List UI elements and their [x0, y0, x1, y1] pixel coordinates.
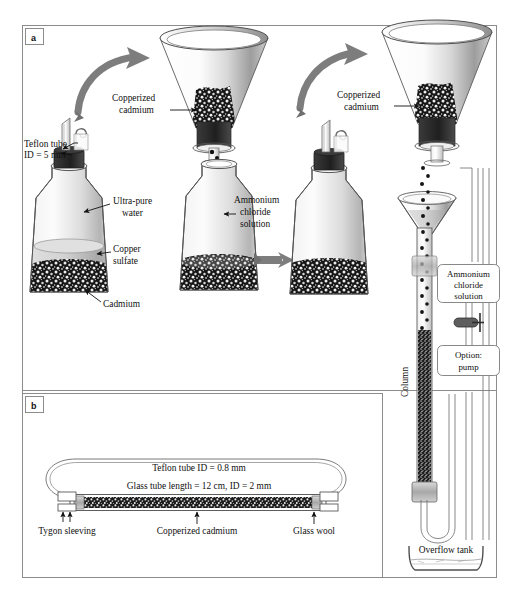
ammonium-chloride-solution-callout: Ammonium chloride solution: [438, 265, 500, 303]
teflon-tube-label-line2: ID = 5 mm: [24, 150, 66, 160]
copperized-cadmium-packing: [82, 497, 314, 508]
funnel-right: [382, 20, 492, 166]
callout-pump-line2: pump: [458, 362, 479, 372]
ultra-pure-water-line2: water: [122, 208, 144, 218]
option-pump-callout: Option: pump: [438, 346, 500, 376]
column-upper-fitting: [412, 256, 437, 276]
label-copperized-cadmium-b: Copperized cadmium: [157, 512, 238, 536]
callout-nh4cl-line1: Ammonium: [447, 269, 490, 279]
cadmium-label: Cadmium: [103, 299, 141, 309]
label-glass-wool: Glass wool: [293, 512, 335, 536]
callout-nh4cl-line3: solution: [454, 291, 483, 301]
label-cadmium: Cadmium: [85, 290, 141, 309]
overflow-tank-label: Overflow tank: [419, 545, 474, 555]
copper-sulfate-line2: sulfate: [113, 256, 138, 266]
ammonium-chloride-line2: chloride: [240, 207, 271, 217]
figure-canvas: a: [0, 0, 520, 601]
copperized-cadmium-left-line2: cadmium: [119, 105, 155, 115]
label-column: Column: [400, 367, 410, 398]
teflon-tube-label-line1: Teflon tube: [24, 139, 67, 149]
copperized-cadmium-right-line1: Copperized: [337, 90, 381, 100]
label-tygon-sleeving: Tygon sleeving: [38, 512, 96, 536]
tygon-sleeving-right: [320, 492, 338, 501]
ultra-pure-water-line1: Ultra-pure: [113, 196, 152, 206]
copper-sulfate-line1: Copper: [113, 244, 141, 254]
copperized-cadmium-right-line2: cadmium: [344, 102, 380, 112]
overflow-tank: Overflow tank: [409, 545, 483, 570]
label-glass-tube-b: Glass tube length = 12 cm, ID = 2 mm: [127, 481, 272, 491]
column-lower-fitting: [412, 482, 437, 502]
pump-valve-icon: [454, 313, 484, 332]
ammonium-chloride-line3: solution: [240, 219, 271, 229]
flask-stoppered-product: [280, 120, 378, 300]
callout-nh4cl-line2: chloride: [454, 280, 483, 290]
glass-wool-label: Glass wool: [293, 526, 335, 536]
scientific-diagram: a: [0, 0, 520, 601]
process-arrow: [254, 252, 294, 268]
tygon-sleeving-left: [58, 492, 76, 501]
copperized-cadmium-b-label: Copperized cadmium: [157, 526, 238, 536]
column-label: Column: [400, 367, 410, 398]
ammonium-chloride-line1: Ammonium: [234, 195, 280, 205]
teflon-tube-id-label: Teflon tube ID = 0.8 mm: [152, 463, 246, 473]
tygon-sleeving-label: Tygon sleeving: [38, 526, 96, 536]
label-teflon-tube-id-b: Teflon tube ID = 0.8 mm: [152, 463, 246, 473]
funnel-left: [160, 26, 268, 166]
glass-tube-label: Glass tube length = 12 cm, ID = 2 mm: [127, 481, 272, 491]
copperized-cadmium-left-line1: Copperized: [112, 93, 156, 103]
callout-pump-line1: Option:: [455, 350, 482, 360]
teflon-tube-right: [322, 120, 330, 152]
panel-b-letter: b: [31, 401, 37, 411]
glass-tube-assembly: [58, 492, 338, 511]
